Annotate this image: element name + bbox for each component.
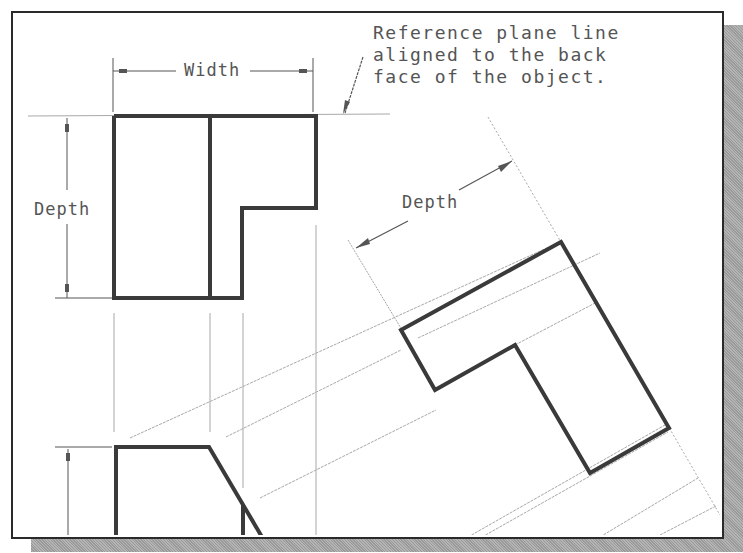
depth-label: Depth <box>34 199 90 219</box>
note-line-2: aligned to the back <box>373 44 620 66</box>
front-view <box>116 447 262 537</box>
reference-plane-note: Reference plane line aligned to the back… <box>373 22 620 88</box>
width-label: Width <box>184 60 240 80</box>
front-depth-dimension <box>55 447 112 537</box>
auxiliary-depth-label: Depth <box>402 192 458 212</box>
auxiliary-view <box>401 242 669 473</box>
top-view <box>114 116 316 298</box>
leader-arrow <box>343 57 363 114</box>
note-line-1: Reference plane line <box>373 22 620 44</box>
construction-lines <box>28 114 720 537</box>
note-line-3: face of the object. <box>373 66 620 88</box>
